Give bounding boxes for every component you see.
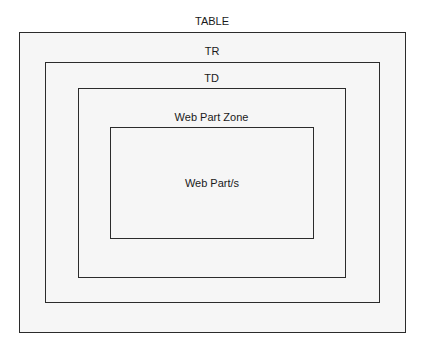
table-label: TABLE xyxy=(19,15,405,27)
web-part-zone-label: Web Part Zone xyxy=(110,111,313,123)
web-parts-label: Web Part/s xyxy=(110,177,314,189)
td-label: TD xyxy=(78,72,345,84)
tr-label: TR xyxy=(45,45,379,57)
